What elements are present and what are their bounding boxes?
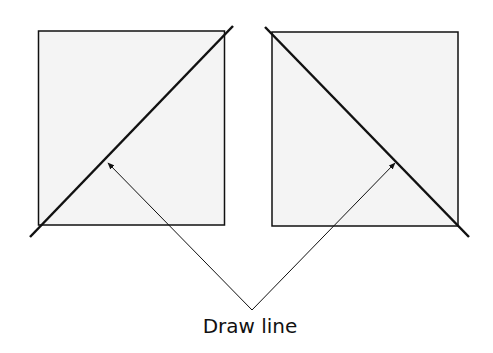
right-square [265,27,469,237]
left-square [30,26,233,237]
draw-line-label: Draw line [0,314,493,338]
diagram-canvas [0,0,493,353]
